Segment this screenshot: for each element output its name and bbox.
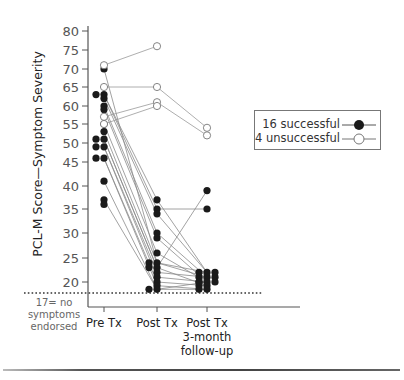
reference-label: endorsed xyxy=(31,321,78,332)
y-tick-label: 65 xyxy=(62,80,79,95)
x-category-label: Post Tx xyxy=(136,316,178,330)
legend-item-unsuccessful: 4 unsuccessful xyxy=(255,131,380,147)
y-tick-label: 40 xyxy=(62,179,79,194)
filled-point xyxy=(153,249,160,256)
filled-point xyxy=(203,205,210,212)
x-category-label: Pre Tx xyxy=(86,316,122,330)
filled-point xyxy=(203,187,210,194)
filled-point xyxy=(211,278,218,285)
open-point xyxy=(100,113,107,120)
open-point xyxy=(203,132,210,139)
legend: 16 successful 4 unsuccessful xyxy=(254,110,381,150)
subject-points xyxy=(92,43,218,293)
filled-point xyxy=(153,196,160,203)
filled-point xyxy=(195,286,202,293)
open-point xyxy=(203,124,210,131)
filled-point xyxy=(203,269,210,276)
subject-line xyxy=(104,110,157,238)
open-point xyxy=(153,83,160,90)
y-tick-label: 35 xyxy=(62,202,79,217)
filled-point xyxy=(100,143,107,150)
y-tick-label: 80 xyxy=(62,24,79,39)
filled-point xyxy=(100,136,107,143)
filled-point xyxy=(153,210,160,217)
y-tick-label: 30 xyxy=(62,226,79,241)
subject-line xyxy=(157,200,207,273)
reference-label: 17= no xyxy=(36,297,73,308)
filled-point xyxy=(145,264,152,271)
open-point xyxy=(153,43,160,50)
open-point xyxy=(100,120,107,127)
open-point xyxy=(153,102,160,109)
x-category-label: 3-month xyxy=(183,330,232,344)
filled-point xyxy=(153,286,160,293)
filled-point xyxy=(100,106,107,113)
legend-label: 16 successful xyxy=(262,117,340,131)
reference-label: symptoms xyxy=(28,309,80,320)
open-point xyxy=(100,83,107,90)
x-category-label: follow-up xyxy=(181,344,234,358)
y-tick-label: 75 xyxy=(62,43,79,58)
filled-point xyxy=(100,178,107,185)
y-tick-label: 45 xyxy=(62,155,79,170)
axis-labels: 2025303540455055606570758017= nosymptoms… xyxy=(28,24,233,359)
filled-point xyxy=(92,155,99,162)
filled-point xyxy=(145,286,152,293)
subject-line xyxy=(104,139,157,267)
subject-line xyxy=(104,95,157,200)
filled-point xyxy=(195,278,202,285)
subject-line xyxy=(104,124,157,253)
filled-point xyxy=(100,155,107,162)
pcl-m-chart: 2025303540455055606570758017= nosymptoms… xyxy=(0,0,404,380)
y-tick-label: 50 xyxy=(62,136,79,151)
subject-line xyxy=(157,214,207,273)
filled-point xyxy=(92,143,99,150)
y-tick-label: 70 xyxy=(62,62,79,77)
y-tick-label: 25 xyxy=(62,251,79,266)
y-tick-label: 60 xyxy=(62,99,79,114)
filled-point xyxy=(153,234,160,241)
open-point xyxy=(100,62,107,69)
y-tick-label: 20 xyxy=(62,275,79,290)
subject-line-unsuccessful xyxy=(104,46,157,65)
filled-point xyxy=(92,91,99,98)
y-axis-title: PCL-M Score—Symptom Severity xyxy=(30,51,45,257)
x-category-label: Post Tx xyxy=(186,316,228,330)
filled-point xyxy=(100,128,107,135)
filled-point xyxy=(92,136,99,143)
legend-label: 4 unsuccessful xyxy=(255,131,340,145)
filled-point xyxy=(100,95,107,102)
y-tick-label: 55 xyxy=(62,117,79,132)
bottom-rule xyxy=(3,369,400,371)
subject-line xyxy=(157,191,207,268)
filled-point xyxy=(203,286,210,293)
filled-point xyxy=(100,201,107,208)
open-circle-icon xyxy=(342,131,376,147)
